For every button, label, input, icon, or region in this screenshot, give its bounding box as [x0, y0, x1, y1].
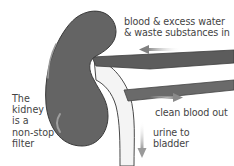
label-urine-line2: bladder: [153, 138, 190, 149]
label-urine-line1: urine to: [153, 127, 190, 138]
caption-line: is a: [12, 115, 54, 126]
label-clean-blood-out-text: clean blood out: [155, 107, 228, 118]
label-blood-in-line1: blood & excess water: [124, 16, 230, 27]
caption-kidney-filter: The kidney is a non-stop filter: [12, 93, 54, 149]
kidney-diagram: blood & excess water & waste substances …: [0, 0, 234, 166]
label-urine: urine to bladder: [153, 127, 190, 149]
label-blood-in-line2: & waste substances in: [124, 27, 230, 38]
arrow-urine-down-icon: [138, 121, 147, 158]
caption-line: The: [12, 93, 54, 104]
renal-artery: [92, 50, 234, 69]
label-blood-in: blood & excess water & waste substances …: [124, 16, 230, 38]
caption-line: non-stop: [12, 127, 54, 138]
caption-line: kidney: [12, 104, 54, 115]
caption-line: filter: [12, 138, 54, 149]
label-clean-blood-out: clean blood out: [155, 107, 228, 118]
